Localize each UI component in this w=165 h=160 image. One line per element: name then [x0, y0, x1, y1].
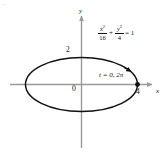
origin-label: 0 — [72, 85, 76, 93]
corner-scan-artifact: .. — [2, 0, 5, 6]
pi-symbol: π — [120, 71, 124, 79]
equation-term-x: x2 16 — [98, 26, 107, 41]
equation-numerator-y-exponent: 2 — [120, 24, 122, 29]
parameter-annotation-text: t = 0, 2 — [99, 71, 120, 79]
equation-denominator-4: 4 — [117, 34, 122, 41]
x-axis-label: x — [156, 88, 159, 95]
equation-plus-operator: + — [108, 30, 114, 37]
equation-term-y: y2 4 — [115, 26, 124, 41]
x-tick-label-4: 4 — [136, 88, 140, 96]
y-axis-label: y — [79, 8, 82, 15]
plot-canvas — [0, 0, 165, 160]
equation-numerator-x: x2 — [99, 26, 106, 33]
ellipse-equation: x2 16 + y2 4 = 1 — [98, 26, 134, 41]
parameter-annotation: t = 0, 2π — [99, 72, 123, 79]
equation-right-hand-side: = 1 — [125, 30, 134, 37]
y-tick-label-2: 2 — [66, 46, 70, 54]
equation-denominator-16: 16 — [98, 34, 107, 41]
equation-numerator-y: y2 — [116, 26, 123, 33]
equation-numerator-x-exponent: 2 — [103, 24, 105, 29]
ellipse-figure: x y 2 0 4 t = 0, 2π x2 16 + y2 4 = 1 .. — [0, 0, 165, 160]
